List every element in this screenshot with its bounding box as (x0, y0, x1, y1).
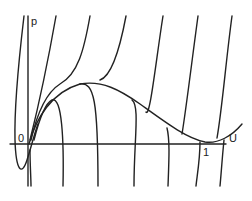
trajectory-4 (146, 16, 163, 112)
trajectory-down-6 (196, 142, 200, 186)
trajectory-1 (30, 16, 56, 140)
trajectory-5 (182, 16, 198, 134)
trajectory-down-2 (34, 100, 63, 186)
origin-label: 0 (18, 133, 24, 144)
trajectory-3 (100, 16, 126, 80)
phase-plane-plot (0, 0, 252, 201)
u-tick-label-1: 1 (203, 147, 209, 158)
trajectory-6 (217, 16, 232, 138)
p-axis-label: p (31, 16, 37, 27)
trajectory-down-4 (132, 100, 136, 186)
phase-portrait-diagram: p 0 1 U (0, 0, 252, 201)
trajectory-down-5 (167, 128, 169, 186)
trajectory-left-loop (15, 16, 38, 169)
trajectory-down-7 (220, 140, 224, 186)
trajectory-down-3 (80, 84, 98, 186)
trajectory-down-1 (30, 150, 31, 186)
u-axis-label: U (229, 133, 237, 144)
